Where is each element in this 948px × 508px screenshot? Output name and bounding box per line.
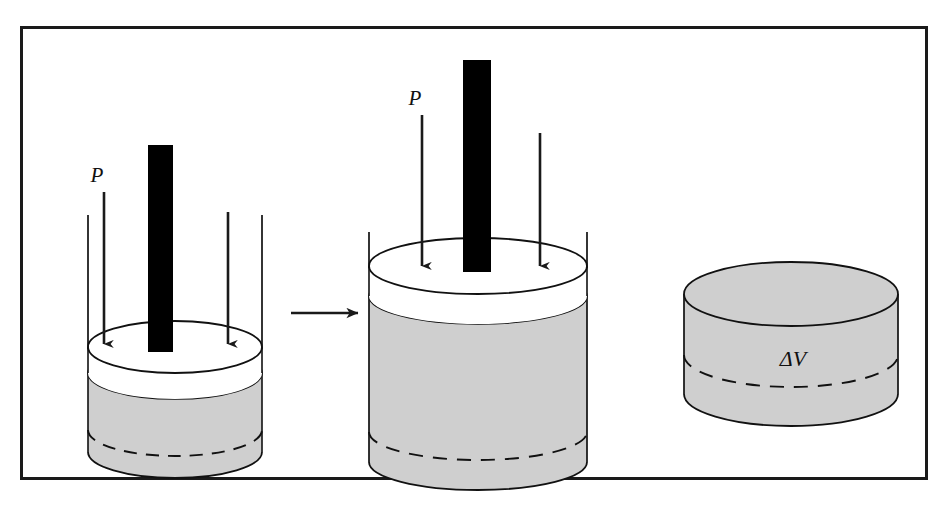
piston-rod-expanded <box>463 60 491 272</box>
gas-body-expanded <box>369 296 587 490</box>
pressure-label-expanded: P <box>408 86 422 110</box>
piston-rod-initial <box>148 145 173 352</box>
delta-v-top-face <box>684 262 898 326</box>
piston-cylinder-diagram: P P <box>0 0 948 508</box>
volume-change-disc: ΔV <box>684 262 898 426</box>
piston-top-face-initial <box>88 321 262 373</box>
figure-root: P P <box>0 0 948 508</box>
volume-change-label: ΔV <box>779 346 809 371</box>
pressure-label-initial: P <box>90 163 104 187</box>
